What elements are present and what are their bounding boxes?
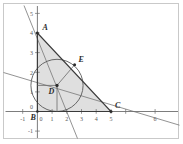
x-tick-label-2: 2 xyxy=(65,116,68,122)
point-label-c: C xyxy=(115,101,121,110)
y-tick-label-neg1: -1 xyxy=(28,128,33,134)
y-tick-label-5: 5 xyxy=(30,11,33,17)
point-label-e: E xyxy=(78,55,84,64)
x-tick-label-5: 5 xyxy=(110,116,113,122)
point-marker-d xyxy=(55,84,58,87)
point-marker-a xyxy=(36,32,39,35)
x-tick-label-0: 0 xyxy=(40,116,43,122)
geometry-figure: -1 0 1 2 3 4 5 6 5 4 3 2 1 0 -1 A B C D xyxy=(0,0,183,144)
x-tick-label-3: 3 xyxy=(80,116,83,122)
point-label-b: B xyxy=(30,113,37,122)
point-label-a: A xyxy=(42,23,49,32)
y-tick-label-2: 2 xyxy=(30,70,33,76)
point-marker-c xyxy=(110,110,113,113)
point-marker-e xyxy=(73,63,76,66)
point-label-d: D xyxy=(48,87,55,96)
x-tick-label-6: 6 xyxy=(154,116,157,122)
y-tick-label-0: 0 xyxy=(30,104,33,110)
figure-container: -1 0 1 2 3 4 5 6 5 4 3 2 1 0 -1 A B C D xyxy=(0,0,183,144)
x-tick-label-4: 4 xyxy=(95,116,98,122)
x-tick-label-neg1: -1 xyxy=(20,116,25,122)
point-marker-b xyxy=(36,110,39,113)
x-tick-label-1: 1 xyxy=(51,116,54,122)
y-tick-label-3: 3 xyxy=(30,50,33,56)
y-tick-label-4: 4 xyxy=(30,30,33,36)
